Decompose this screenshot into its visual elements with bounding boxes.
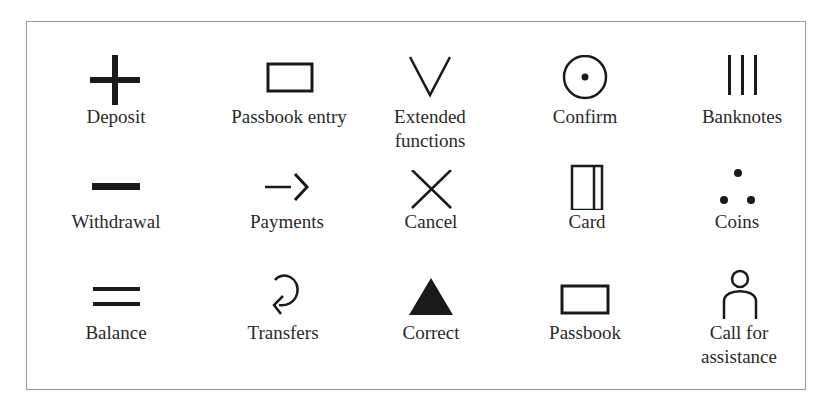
symbol-deposit: Deposit (36, 55, 196, 129)
rectangle-icon (555, 272, 615, 321)
symbol-cancel: Cancel (351, 170, 511, 234)
symbol-label: Coins (657, 210, 817, 234)
symbol-label: Confirm (505, 105, 665, 129)
symbol-passbook: Passbook (505, 272, 665, 345)
symbol-call-for-assistance: Call for assistance (659, 268, 819, 369)
symbol-label: Deposit (36, 105, 196, 129)
triangle-icon (401, 272, 461, 321)
loop-arrow-icon (253, 272, 313, 321)
symbol-card: Card (507, 164, 667, 234)
symbol-extended-functions: Extended functions (350, 55, 510, 153)
symbol-label: Transfers (203, 321, 363, 345)
v-chevron-icon (400, 55, 460, 105)
symbol-label: Passbook entry (209, 105, 369, 129)
symbol-coins: Coins (657, 164, 817, 234)
plus-icon (86, 55, 146, 105)
symbol-label: Balance (36, 321, 196, 345)
symbol-label: Payments (207, 210, 367, 234)
symbol-confirm: Confirm (505, 55, 665, 129)
symbol-label: Cancel (351, 210, 511, 234)
rectangle-icon (259, 55, 319, 105)
person-icon (709, 268, 769, 321)
symbol-balance: Balance (36, 277, 196, 345)
symbol-label: Card (507, 210, 667, 234)
symbol-label: Withdrawal (36, 210, 196, 234)
symbol-payments: Payments (207, 170, 367, 234)
symbol-transfers: Transfers (203, 272, 363, 345)
arrow-right-icon (257, 170, 317, 210)
symbol-correct: Correct (351, 272, 511, 345)
minus-icon (86, 170, 146, 210)
symbol-banknotes: Banknotes (662, 55, 822, 129)
card-icon (557, 164, 617, 210)
symbol-label: Banknotes (662, 105, 822, 129)
symbol-label: Correct (351, 321, 511, 345)
x-icon (401, 170, 461, 210)
symbol-label: Extended functions (350, 105, 510, 153)
symbol-label: Passbook (505, 321, 665, 345)
circle-dot-icon (555, 55, 615, 105)
three-dots-icon (707, 164, 767, 210)
symbol-label: Call for assistance (659, 321, 819, 369)
symbol-passbook-entry: Passbook entry (209, 55, 369, 129)
symbol-withdrawal: Withdrawal (36, 170, 196, 234)
equals-icon (86, 277, 146, 321)
three-bars-icon (712, 55, 772, 105)
